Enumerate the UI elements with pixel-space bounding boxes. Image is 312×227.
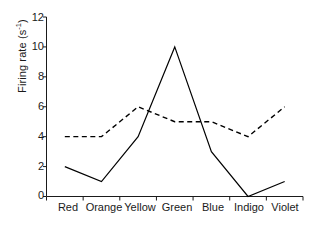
- data-series-dashed: [65, 107, 285, 137]
- plot-area: [0, 0, 312, 227]
- x-axis-ticks: [47, 197, 304, 201]
- y-axis-ticks: [43, 17, 47, 197]
- axis-spines: [47, 17, 304, 197]
- chart-figure: Firing rate (s-1) 12 10 8 6 4 2 0 Red Or…: [0, 0, 312, 227]
